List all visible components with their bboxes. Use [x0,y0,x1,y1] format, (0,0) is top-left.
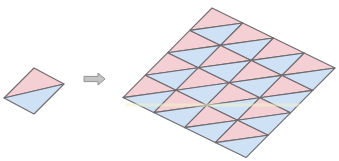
highlight-strip [125,104,300,107]
right-arrow-icon [84,73,105,85]
tiling-diagram [0,0,339,161]
highlight-band [125,104,300,107]
single-tile [4,68,64,114]
tiled-grid [123,8,335,158]
arrow-shape [84,73,105,85]
